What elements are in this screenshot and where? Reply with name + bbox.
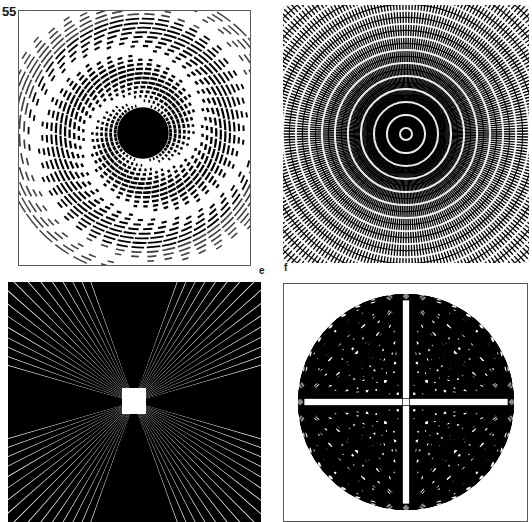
figure-label-e: e — [259, 266, 265, 276]
figure-panel-h — [283, 283, 528, 522]
page-number: 55 — [2, 5, 16, 18]
four-focus-disc-figure — [284, 284, 527, 521]
figure-panel-e — [18, 10, 251, 266]
figure-panel-g — [8, 282, 261, 522]
figure-label-f: f — [284, 263, 287, 273]
radial-moire-figure — [283, 5, 529, 263]
concentric-rings-figure — [19, 11, 250, 265]
figure-panel-f — [283, 5, 529, 263]
starburst-square-figure — [8, 282, 261, 522]
book-page: 55 e f — [0, 0, 532, 522]
